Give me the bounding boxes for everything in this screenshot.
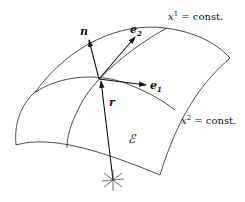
e2-label: e2 bbox=[130, 24, 142, 37]
x1-const-label: x1 = const. bbox=[168, 11, 223, 22]
e1-vector bbox=[99, 79, 146, 85]
r-label: r bbox=[109, 97, 115, 108]
n-vector bbox=[89, 40, 99, 79]
e2-vector bbox=[99, 37, 135, 79]
surface-outline bbox=[16, 27, 230, 175]
surface-label: ℰ bbox=[128, 133, 135, 145]
origin-marker bbox=[102, 170, 124, 191]
x2-const-label: x2 = const. bbox=[181, 115, 236, 126]
e1-label: e1 bbox=[150, 80, 162, 93]
diagram-canvas bbox=[0, 0, 245, 202]
n-label: n bbox=[80, 26, 88, 37]
surface-diagram: n e2 e1 r ℰ x1 = const. x2 = const. bbox=[0, 0, 245, 202]
